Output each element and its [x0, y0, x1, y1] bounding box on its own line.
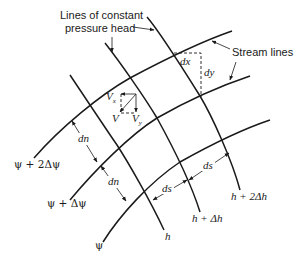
dn-label-1: dn — [78, 132, 90, 144]
flow-net-diagram: Lines of constant pressure head Stream l… — [0, 0, 307, 259]
ds-label-1: ds — [162, 182, 172, 194]
pressure-head-label-line1: Lines of constant — [60, 9, 143, 21]
equipotential-label-h: h — [165, 230, 171, 242]
v-label: V — [112, 112, 120, 124]
pressure-head-label-line2: pressure head — [65, 22, 135, 34]
vy-label: Vy — [132, 112, 143, 127]
vx-label: Vx — [106, 90, 117, 105]
stream-lines-label: Stream lines — [232, 46, 294, 58]
stream-lines-arrow-2 — [230, 62, 236, 80]
pressure-head-arrow-2 — [133, 27, 154, 30]
dy-label: dy — [204, 66, 215, 78]
equipotential-label-h-plus-2dh: h + 2Δh — [231, 190, 267, 202]
velocity-vector-diagram — [120, 94, 136, 113]
dn-label-2: dn — [108, 175, 120, 187]
ds-label-2: ds — [203, 159, 213, 171]
stream-line-psi-plus-dpsi — [70, 76, 250, 200]
stream-label-psi-plus-dpsi: ψ + Δψ — [47, 197, 87, 209]
stream-label-psi-plus-2dpsi: ψ + 2Δψ — [14, 158, 60, 170]
equipotential-line-h-plus-2dh — [147, 17, 240, 190]
v-arrow — [120, 94, 136, 112]
dx-label: dx — [180, 55, 191, 67]
equipotential-label-h-plus-dh: h + Δh — [192, 212, 223, 224]
stream-lines-arrow-1 — [212, 41, 230, 49]
stream-label-psi: ψ — [95, 239, 103, 251]
stream-line-psi — [103, 120, 270, 242]
